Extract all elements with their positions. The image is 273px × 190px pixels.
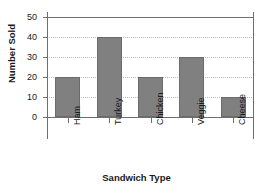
y-axis-tick: 50 (43, 17, 47, 18)
y-axis-tick-label: 40 (27, 32, 37, 42)
x-axis-category-label: Cheese (237, 94, 247, 125)
y-axis-tick: 10 (43, 97, 47, 98)
y-axis-tick-label: 50 (27, 12, 37, 22)
y-axis-tick-label: 0 (32, 112, 37, 122)
y-axis-tick: 30 (43, 57, 47, 58)
gridline (47, 57, 254, 58)
x-axis-tick (192, 117, 193, 123)
y-axis-tick-label: 20 (27, 72, 37, 82)
y-axis-line (47, 12, 48, 139)
y-axis-title: Number Sold (6, 14, 17, 94)
x-axis-title: Sandwich Type (0, 172, 273, 183)
x-axis-category-label: Turkey (113, 98, 123, 125)
x-axis-category-label: Chicken (155, 92, 165, 125)
chart-title: Sandwiches Sold (0, 0, 273, 1)
y-axis-tick-label: 30 (27, 52, 37, 62)
x-axis-tick (109, 117, 110, 123)
x-axis-tick (233, 117, 234, 123)
x-axis-category-label: Veggie (196, 97, 206, 125)
bar-chart-figure: Sandwiches Sold Number Sold 01020304050 … (0, 0, 273, 190)
y-axis-tick-label: 10 (27, 92, 37, 102)
gridline (47, 17, 254, 18)
y-axis-tick: 0 (43, 117, 47, 118)
x-axis-tick (151, 117, 152, 123)
y-axis-tick: 20 (43, 77, 47, 78)
x-axis-tick (68, 117, 69, 123)
x-axis-category-label: Ham (72, 106, 82, 125)
plot-area: 01020304050 HamTurkeyChickenVeggieCheese (47, 17, 254, 117)
gridline (47, 37, 254, 38)
right-axis-line (253, 12, 254, 139)
y-axis-tick: 40 (43, 37, 47, 38)
